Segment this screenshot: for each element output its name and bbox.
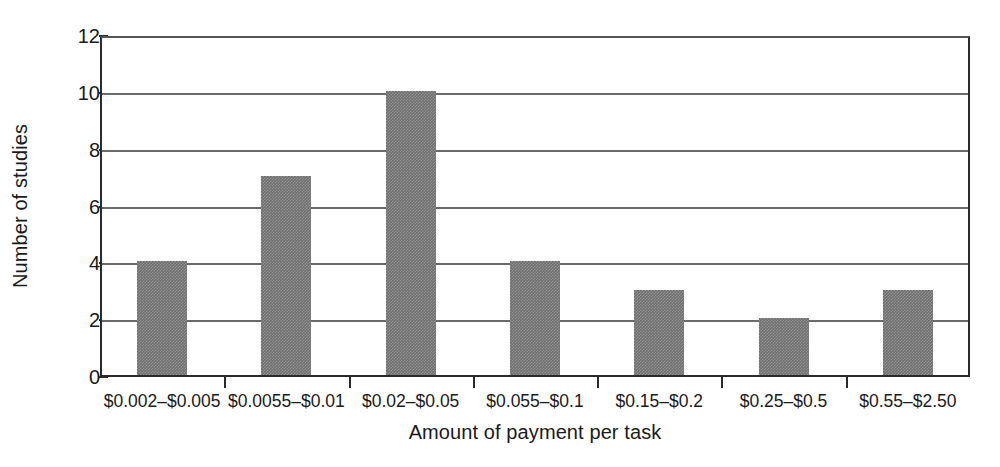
plot-area	[100, 36, 970, 377]
y-axis-tick-label: 12	[66, 26, 100, 46]
y-axis-tick-label: 4	[66, 253, 100, 273]
bar[interactable]	[510, 261, 560, 375]
x-axis-tick-label: $0.02–$0.05	[349, 389, 473, 413]
x-axis-tick-label: $0.0055–$0.01	[224, 389, 348, 413]
x-axis-tick-mark	[721, 377, 723, 388]
bar[interactable]	[634, 290, 684, 375]
bar[interactable]	[386, 91, 436, 375]
gridline	[102, 150, 968, 152]
y-axis-tick-label: 2	[66, 310, 100, 330]
y-axis-tick-label: 6	[66, 197, 100, 217]
y-axis-ticks: 024681012	[56, 0, 100, 467]
bar[interactable]	[883, 290, 933, 375]
x-axis-tick-label: $0.15–$0.2	[597, 389, 721, 413]
x-axis-tick-mark	[597, 377, 599, 388]
y-axis-tick-label: 0	[66, 367, 100, 387]
x-axis-tick-mark	[846, 377, 848, 388]
x-axis-tick-mark	[224, 377, 226, 388]
x-axis-tick-label: $0.55–$2.50	[846, 389, 970, 413]
x-axis-tick-label: $0.25–$0.5	[721, 389, 845, 413]
y-axis-tick-label: 10	[66, 83, 100, 103]
x-axis-tick-labels: $0.002–$0.005$0.0055–$0.01$0.02–$0.05$0.…	[100, 389, 970, 415]
x-axis-tick-label: $0.055–$0.1	[473, 389, 597, 413]
x-axis-tick-mark	[473, 377, 475, 388]
y-axis-tick-label: 8	[66, 140, 100, 160]
bar[interactable]	[137, 261, 187, 375]
x-axis-tick-mark	[349, 377, 351, 388]
x-axis-title: Amount of payment per task	[100, 421, 970, 444]
bar-chart-figure: Number of studies 024681012 $0.002–$0.00…	[0, 0, 1000, 467]
x-axis-tick-label: $0.002–$0.005	[100, 389, 224, 413]
y-axis-title: Number of studies	[0, 16, 40, 396]
bar[interactable]	[261, 176, 311, 375]
bar[interactable]	[759, 318, 809, 375]
gridline	[102, 93, 968, 95]
gridline	[102, 207, 968, 209]
